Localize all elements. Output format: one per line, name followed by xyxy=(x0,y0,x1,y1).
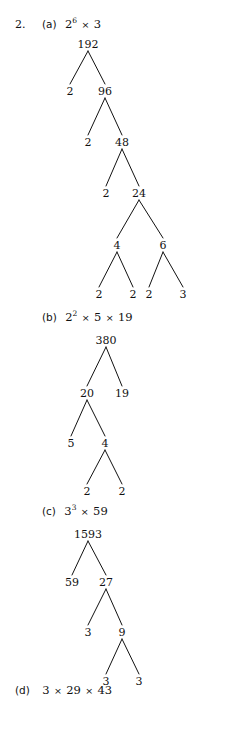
part-marker-a: (a) xyxy=(42,18,57,30)
tree-node: 48 xyxy=(115,137,129,148)
answer-line-a: (a) 26 × 3 xyxy=(42,19,101,31)
tree-branch xyxy=(122,149,139,186)
answer-term-a-1: 3 xyxy=(94,17,101,31)
tree-leaf-node: 2 xyxy=(130,289,137,300)
tree-branch xyxy=(88,51,105,84)
tree-leaf-node: 5 xyxy=(68,438,75,449)
tree-node: 192 xyxy=(78,39,99,50)
tree-branch xyxy=(105,98,122,135)
answer-term-c-1: 59 xyxy=(93,504,108,518)
answer-line-b: (b) 22 × 5 × 19 xyxy=(42,312,133,324)
tree-node: 27 xyxy=(99,577,113,588)
tree-branch xyxy=(88,98,105,135)
times-symbol: × xyxy=(53,685,63,696)
answer-term-c-0: 33 xyxy=(64,504,76,518)
answer-term-d-0: 3 xyxy=(42,683,49,697)
tree-branch xyxy=(99,252,117,287)
question-number: 2. xyxy=(15,19,26,30)
tree-branch xyxy=(117,200,139,238)
tree-branch xyxy=(72,541,88,575)
times-symbol: × xyxy=(80,19,90,30)
tree-branch xyxy=(106,347,122,386)
tree-node: 24 xyxy=(132,188,146,199)
tree-branch xyxy=(139,200,163,238)
tree-node: 6 xyxy=(160,240,167,251)
tree-branch xyxy=(105,450,122,484)
part-marker-c: (c) xyxy=(42,505,56,517)
tree-branch xyxy=(163,252,183,287)
tree-branch xyxy=(70,51,88,84)
times-symbol: × xyxy=(81,312,91,323)
tree-branch xyxy=(106,639,122,674)
tree-leaf-node: 2 xyxy=(67,86,74,97)
tree-node: 96 xyxy=(98,86,112,97)
tree-leaf-node: 3 xyxy=(136,676,143,687)
tree-branch xyxy=(117,252,133,287)
tree-node: 4 xyxy=(114,240,121,251)
tree-branch xyxy=(88,541,106,575)
tree-node: 380 xyxy=(96,335,117,346)
tree-leaf-node: 2 xyxy=(146,289,153,300)
tree-branch xyxy=(87,400,105,436)
tree-leaf-node: 2 xyxy=(84,486,91,497)
tree-branch xyxy=(106,149,122,186)
tree-branch xyxy=(106,589,122,625)
times-symbol: × xyxy=(80,506,90,517)
tree-leaf-node: 2 xyxy=(103,188,110,199)
answer-line-c: (c) 33 × 59 xyxy=(42,506,108,518)
tree-leaf-node: 2 xyxy=(85,137,92,148)
tree-leaf-node: 59 xyxy=(65,577,79,588)
tree-branch xyxy=(149,252,163,287)
answer-term-b-0: 22 xyxy=(65,310,77,324)
part-marker-b: (b) xyxy=(42,311,57,323)
times-symbol: × xyxy=(84,685,94,696)
tree-leaf-node: 2 xyxy=(96,289,103,300)
tree-branch xyxy=(87,347,106,386)
tree-branch xyxy=(71,400,87,436)
tree-leaf-node: 3 xyxy=(180,289,187,300)
times-symbol: × xyxy=(105,312,115,323)
tree-branch xyxy=(88,589,106,625)
tree-node: 20 xyxy=(80,388,94,399)
answer-line-d: (d) 3 × 29 × 43 xyxy=(15,685,112,697)
answer-term-b-1: 5 xyxy=(94,310,101,324)
worksheet-page: 2. (a) 26 × 3 (b) 22 × 5 × 19 (c) 33 × 5… xyxy=(0,0,239,736)
tree-leaf-node: 3 xyxy=(103,676,110,687)
part-marker-d: (d) xyxy=(15,684,30,696)
tree-leaf-node: 2 xyxy=(119,486,126,497)
tree-node: 4 xyxy=(102,438,109,449)
tree-branch xyxy=(122,639,139,674)
tree-node: 9 xyxy=(119,627,126,638)
answer-term-d-1: 29 xyxy=(66,683,81,697)
tree-node: 1593 xyxy=(74,529,102,540)
answer-term-a-0: 26 xyxy=(65,17,77,31)
tree-branch xyxy=(87,450,105,484)
tree-leaf-node: 19 xyxy=(115,388,129,399)
answer-term-b-2: 19 xyxy=(118,310,133,324)
tree-leaf-node: 3 xyxy=(85,627,92,638)
